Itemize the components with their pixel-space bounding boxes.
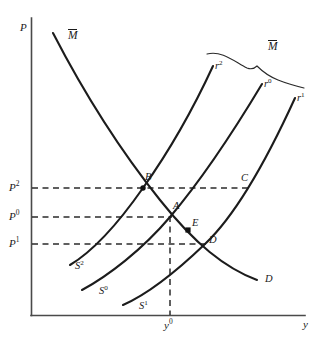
supply-curve-s0: [82, 84, 262, 290]
demand-curve-group: [53, 33, 257, 280]
x-axis-label: y: [303, 319, 308, 330]
output-label-y0: y0: [164, 320, 173, 331]
point-marker-B: [140, 185, 145, 190]
rate-curve-label-r0: r0: [264, 79, 272, 90]
demand-curve-mbar: [53, 33, 257, 280]
price-label-p1: P1: [9, 238, 19, 249]
price-label-p0: P0: [9, 211, 19, 222]
supply-curve-label-s1: S1: [139, 301, 148, 312]
supply-curves-group: [70, 66, 295, 305]
supply-curve-label-s0: S0: [99, 286, 108, 297]
price-label-p2: P2: [9, 182, 19, 193]
demand-curve-label-mbar: M: [68, 30, 78, 42]
point-marker-E: [185, 227, 190, 232]
y-axis-label: P: [20, 22, 27, 33]
demand-curve-label-d: D: [265, 274, 273, 285]
rate-curve-label-r2: r2: [215, 61, 223, 72]
rate-curve-label-r1: r1: [297, 93, 305, 104]
point-label-C: C: [241, 173, 248, 184]
axes-group: [31, 18, 305, 316]
money-brace-label: M: [268, 41, 278, 53]
point-label-A: A: [173, 201, 179, 212]
supply-curve-label-s2: S2: [75, 261, 84, 272]
point-label-E: E: [192, 218, 198, 229]
point-label-B: B: [145, 172, 151, 183]
point-label-D: D: [209, 235, 217, 246]
economics-diagram-figure: P y P2 P0 P1 y0 M D M S2 S0 S1 r2 r0 r1 …: [0, 0, 326, 342]
